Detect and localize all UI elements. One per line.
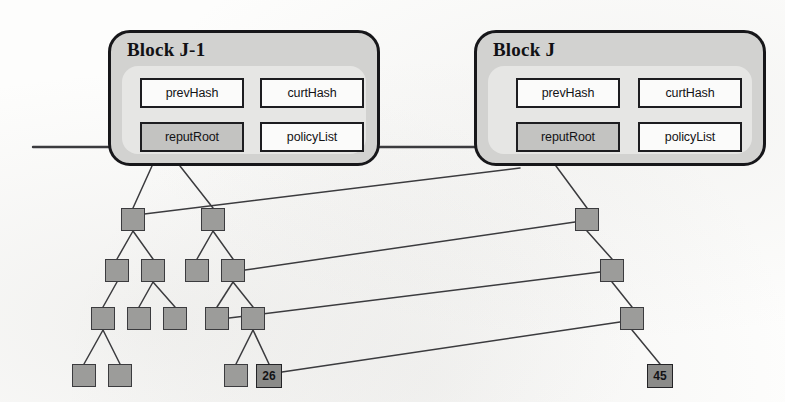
merkle-node[interactable] bbox=[224, 364, 248, 387]
merkle-node[interactable] bbox=[205, 307, 229, 330]
merkle-node[interactable] bbox=[91, 307, 115, 330]
tree-link bbox=[612, 282, 632, 307]
merkle-node[interactable] bbox=[620, 307, 644, 330]
merkle-node[interactable] bbox=[72, 364, 96, 387]
tree-link bbox=[236, 330, 253, 364]
field-curt-hash[interactable]: curtHash bbox=[260, 78, 364, 108]
merkle-node[interactable] bbox=[575, 208, 599, 231]
tree-link bbox=[117, 231, 133, 259]
tree-link bbox=[213, 231, 233, 259]
root-link bbox=[180, 166, 213, 208]
merkle-node[interactable] bbox=[108, 364, 132, 387]
cross-link bbox=[245, 222, 575, 270]
tree-link bbox=[233, 282, 253, 307]
merkle-node[interactable] bbox=[163, 307, 187, 330]
tree-link bbox=[103, 330, 120, 364]
field-reput-root[interactable]: reputRoot bbox=[516, 122, 620, 152]
field-prev-hash[interactable]: prevHash bbox=[516, 78, 620, 108]
field-policy-list[interactable]: policyList bbox=[260, 122, 364, 152]
tree-link bbox=[197, 231, 213, 259]
cross-link bbox=[229, 272, 600, 318]
merkle-node[interactable] bbox=[201, 208, 225, 231]
tree-link bbox=[84, 330, 103, 364]
merkle-leaf-node-45[interactable]: 45 bbox=[647, 364, 673, 388]
tree-link bbox=[217, 282, 233, 307]
tree-link bbox=[253, 330, 269, 364]
merkle-node[interactable] bbox=[600, 259, 624, 282]
tree-link bbox=[632, 330, 660, 364]
tree-link bbox=[103, 282, 117, 307]
block-j[interactable]: Block J prevHash curtHash reputRoot poli… bbox=[474, 30, 766, 166]
block-j-minus-1-title: Block J-1 bbox=[127, 39, 205, 61]
field-reput-root[interactable]: reputRoot bbox=[140, 122, 244, 152]
tree-link bbox=[133, 231, 153, 259]
merkle-leaf-node-26[interactable]: 26 bbox=[256, 364, 282, 388]
field-policy-list[interactable]: policyList bbox=[638, 122, 742, 152]
tree-link bbox=[587, 231, 612, 259]
block-j-minus-1-panel: prevHash curtHash reputRoot policyList bbox=[122, 66, 366, 154]
cross-link bbox=[282, 322, 620, 372]
block-j-minus-1[interactable]: Block J-1 prevHash curtHash reputRoot po… bbox=[108, 30, 380, 166]
root-link bbox=[133, 166, 152, 208]
field-curt-hash[interactable]: curtHash bbox=[638, 78, 742, 108]
merkle-node[interactable] bbox=[185, 259, 209, 282]
root-link bbox=[556, 166, 587, 208]
merkle-node[interactable] bbox=[127, 307, 151, 330]
merkle-node[interactable] bbox=[221, 259, 245, 282]
merkle-node[interactable] bbox=[241, 307, 265, 330]
block-j-title: Block J bbox=[493, 39, 555, 61]
field-prev-hash[interactable]: prevHash bbox=[140, 78, 244, 108]
merkle-node[interactable] bbox=[141, 259, 165, 282]
merkle-node[interactable] bbox=[105, 259, 129, 282]
tree-link bbox=[139, 282, 153, 307]
block-j-panel: prevHash curtHash reputRoot policyList bbox=[488, 66, 752, 154]
tree-link bbox=[153, 282, 175, 307]
merkle-node[interactable] bbox=[121, 208, 145, 231]
diagram-canvas: Block J-1 prevHash curtHash reputRoot po… bbox=[0, 0, 785, 402]
